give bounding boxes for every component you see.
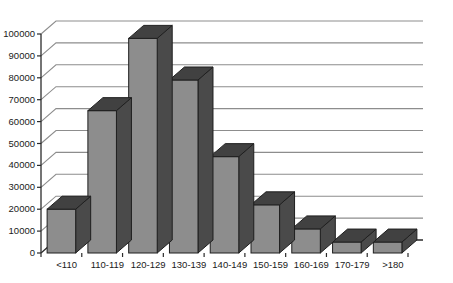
y-tick-label: 70000 xyxy=(9,94,35,105)
bar-front-face xyxy=(47,209,76,253)
x-category-label: 140-149 xyxy=(212,259,247,270)
y-tick-label: 60000 xyxy=(9,116,35,127)
y-tick-label: 20000 xyxy=(9,203,35,214)
bar-side-face xyxy=(116,98,131,253)
y-tick-label: 40000 xyxy=(9,159,35,170)
x-category-label: >180 xyxy=(382,259,403,270)
bar-chart-figure: 0100002000030000400005000060000700008000… xyxy=(0,0,453,283)
bar-170-179 xyxy=(333,229,377,253)
ytick-labels-group: 0100002000030000400005000060000700008000… xyxy=(3,28,35,258)
bar-front-face xyxy=(373,242,402,253)
bar-front-face xyxy=(129,38,158,253)
bar-150-159 xyxy=(251,192,295,253)
bar-front-face xyxy=(333,242,362,253)
x-category-label: <110 xyxy=(56,259,77,270)
bar-side-face xyxy=(198,67,213,253)
x-category-label: 110-119 xyxy=(91,259,124,270)
bar->180 xyxy=(373,229,417,253)
gridline-80000 xyxy=(41,65,423,78)
bar-front-face xyxy=(292,229,321,253)
y-tick-label: 30000 xyxy=(9,181,35,192)
bar-110-119 xyxy=(88,98,132,253)
x-category-label: 150-159 xyxy=(253,259,288,270)
bar-160-169 xyxy=(292,216,336,253)
y-tick-label: 90000 xyxy=(9,50,35,61)
bar-130-139 xyxy=(169,67,213,253)
x-category-label: 170-179 xyxy=(335,259,370,270)
bar-front-face xyxy=(169,80,198,253)
gridline-100000 xyxy=(41,21,423,34)
bar-<110 xyxy=(47,196,91,253)
gridline-90000 xyxy=(41,43,423,56)
gridline-70000 xyxy=(41,87,423,100)
x-category-label: 160-169 xyxy=(294,259,329,270)
y-tick-label: 0 xyxy=(30,247,35,258)
y-tick-label: 50000 xyxy=(9,138,35,149)
x-category-label: 130-139 xyxy=(172,259,207,270)
bar-front-face xyxy=(88,111,117,253)
bar-120-129 xyxy=(129,25,173,253)
bar-140-149 xyxy=(210,144,254,253)
y-tick-label: 10000 xyxy=(9,225,35,236)
bar-front-face xyxy=(251,205,280,253)
bar-side-face xyxy=(239,144,254,253)
y-tick-label: 100000 xyxy=(3,28,35,39)
bar-front-face xyxy=(210,157,239,253)
x-category-label: 120-129 xyxy=(131,259,166,270)
bar-side-face xyxy=(157,25,172,253)
bars-group xyxy=(47,25,417,253)
category-labels-group: <110110-119120-129130-139140-149150-1591… xyxy=(56,259,403,270)
y-tick-label: 80000 xyxy=(9,72,35,83)
chart-canvas: 0100002000030000400005000060000700008000… xyxy=(0,0,453,283)
